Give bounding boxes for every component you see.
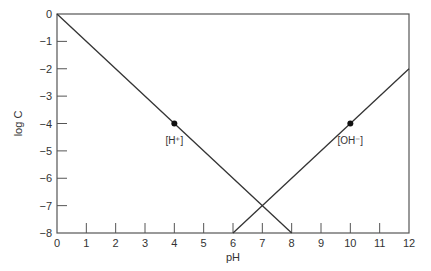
data-point [347,121,353,127]
y-tick-label: 0 [46,8,52,20]
y-tick-label: −7 [39,200,52,212]
x-tick-label: 5 [201,237,207,249]
x-tick-label: 11 [374,237,385,249]
x-tick-label: 4 [171,237,177,249]
x-tick-label: 2 [113,237,119,249]
x-tick-label: 10 [344,237,356,249]
series-annotation: [OH⁻] [338,135,364,146]
series-annotation: [H⁺] [165,135,183,146]
y-tick-label: −2 [39,63,52,75]
y-tick-label: −4 [39,118,52,130]
x-tick-label: 7 [259,237,265,249]
x-tick-label: 8 [289,237,295,249]
x-tick-label: 0 [54,237,60,249]
y-tick-label: −1 [39,35,52,47]
x-axis-title: pH [226,251,240,263]
y-axis-title: log C [12,111,24,137]
y-tick-label: −8 [39,227,52,239]
chart: 01234567891011120−1−2−3−4−5−6−7−8pHlog C… [0,0,431,271]
y-tick-label: −6 [39,172,52,184]
y-tick-label: −5 [39,145,52,157]
data-point [171,121,177,127]
x-tick-label: 1 [83,237,89,249]
x-tick-label: 9 [318,237,324,249]
series-line [233,69,409,233]
x-tick-label: 6 [230,237,236,249]
x-tick-label: 12 [403,237,415,249]
y-tick-label: −3 [39,90,52,102]
plot-frame [57,14,409,233]
x-tick-label: 3 [142,237,148,249]
